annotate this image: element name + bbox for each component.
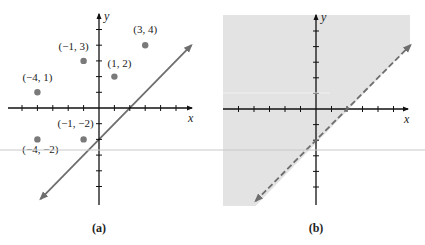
point-label: (−1, 3) [59,40,89,53]
data-point [80,136,86,142]
point-label: (3, 4) [133,23,157,36]
data-point [142,42,148,48]
x-axis-label: x [403,112,410,126]
plotted-points: (−4, 1)(−1, 3)(1, 2)(3, 4)(−1, −2)(−4, −… [22,23,157,156]
panel-label-b: (b) [309,221,324,235]
panel-b-graph: x y (b) [223,10,411,235]
point-label: (1, 2) [107,57,131,70]
x-axis-label: x [187,111,194,125]
figure-canvas: (−4, 1)(−1, 3)(1, 2)(3, 4)(−1, −2)(−4, −… [0,0,425,245]
data-point [34,89,40,95]
data-point [111,73,117,79]
point-label: (−4, 1) [22,71,52,84]
data-point [34,136,40,142]
point-label: (−1, −2) [57,117,94,130]
panel-a-graph: (−4, 1)(−1, 3)(1, 2)(3, 4)(−1, −2)(−4, −… [8,9,194,235]
axes-a [8,14,192,205]
y-axis-label: y [103,9,110,23]
data-point [80,58,86,64]
shaded-region [223,15,411,206]
panel-label-a: (a) [92,221,106,235]
y-axis-label: y [320,10,327,24]
